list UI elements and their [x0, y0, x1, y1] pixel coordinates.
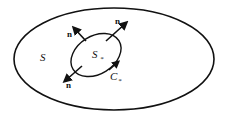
curve-direction-arrow: [109, 62, 118, 70]
curve-subscript: *: [118, 77, 122, 85]
curve-label: C: [110, 70, 118, 82]
normal-arrow-lower-left: [65, 66, 82, 81]
inner-surface-label: S: [92, 48, 98, 60]
outer-surface-label: S: [40, 51, 46, 63]
normal-label-upper-left: n: [67, 29, 72, 39]
surface-diagram: S S * C * n n n: [0, 0, 227, 115]
normal-arrow-upper-left: [74, 28, 86, 41]
normal-label-lower-left: n: [66, 80, 71, 90]
inner-surface-subscript: *: [100, 55, 104, 63]
normal-label-upper-right: n: [115, 16, 120, 26]
